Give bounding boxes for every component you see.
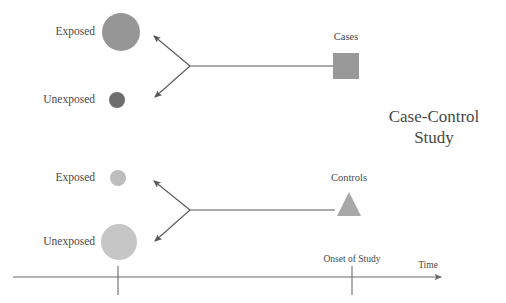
controls-label: Controls (319, 172, 379, 183)
bottom-exposed-label: Exposed (0, 171, 95, 183)
top-exposed-circle (102, 13, 140, 51)
controls-triangle (337, 192, 361, 216)
cases-to-unexposed-arrow (155, 66, 190, 97)
controls-to-exposed-arrow (154, 181, 190, 210)
time-axis-label: Time (408, 261, 448, 271)
cases-square (333, 53, 359, 79)
case-control-study-diagram: Exposed Unexposed Exposed Unexposed Case… (0, 0, 506, 303)
diagram-vector-layer (0, 0, 506, 303)
cases-label: Cases (316, 31, 376, 42)
top-exposed-label: Exposed (0, 25, 95, 37)
bottom-unexposed-label: Unexposed (0, 235, 95, 247)
controls-to-unexposed-arrow (155, 210, 190, 241)
diagram-title-line-1: Case-Control (366, 107, 502, 128)
diagram-title: Case-Control Study (366, 107, 502, 148)
diagram-title-line-2: Study (366, 128, 502, 149)
cases-to-exposed-arrow (154, 36, 190, 66)
bottom-unexposed-circle (101, 224, 137, 260)
top-unexposed-label: Unexposed (0, 93, 95, 105)
bottom-exposed-circle (110, 170, 126, 186)
onset-of-study-label: Onset of Study (302, 255, 402, 265)
top-unexposed-circle (109, 92, 125, 108)
